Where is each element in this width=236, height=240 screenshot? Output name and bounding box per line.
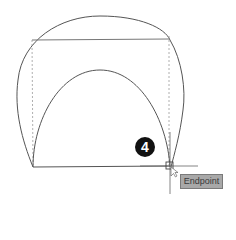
left-construction-line [32,40,33,165]
endpoint-snap-tooltip: Endpoint [180,174,223,189]
rectangle-top-edge [32,39,169,40]
step-number-badge: 4 [135,137,155,157]
cursor-arrow-icon [171,167,178,177]
